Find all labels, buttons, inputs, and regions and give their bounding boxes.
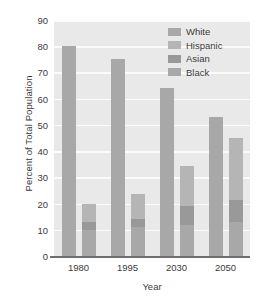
bar-segment-black [229,222,243,256]
population-percent-bar-chart: Percent of Total Population 010203040506… [0,0,262,303]
bar-minority-1980 [82,204,96,256]
y-axis-tick-label: 40 [22,146,48,157]
y-axis-tick-label: 70 [22,67,48,78]
bar-segment-white [209,117,223,256]
gridline [54,99,250,101]
legend-item-white: White [168,25,248,39]
bar-segment-asian [82,222,96,230]
y-axis-tick-label: 80 [22,41,48,52]
y-axis-tick-label: 20 [22,198,48,209]
y-axis-tick-label: 0 [22,251,48,262]
legend-item-black: Black [168,66,248,80]
legend-swatch-black [168,68,181,76]
bar-segment-black [131,227,145,256]
bar-segment-hispanic [82,204,96,222]
legend-label-black: Black [186,67,209,78]
legend-swatch-hispanic [168,41,181,49]
x-axis-title: Year [54,281,250,292]
legend: WhiteHispanicAsianBlack [168,25,248,79]
bar-minority-2050 [229,138,243,256]
bar-minority-2030 [180,166,194,256]
y-axis-tick-label: 10 [22,224,48,235]
legend-swatch-asian [168,55,181,63]
legend-label-hispanic: Hispanic [186,40,222,51]
bar-segment-white [111,59,125,256]
x-axis-tick-label-2050: 2050 [196,262,256,273]
bar-segment-asian [229,200,243,222]
bar-segment-hispanic [131,194,145,219]
y-axis-tick-label: 90 [22,15,48,26]
legend-swatch-white [168,28,181,36]
y-axis-tick-label: 50 [22,119,48,130]
legend-label-white: White [186,26,210,37]
x-axis-line [50,256,250,258]
gridline [54,20,250,22]
bar-white-1980 [62,46,76,256]
y-axis-tick-label: 60 [22,93,48,104]
y-axis-tick-label: 30 [22,172,48,183]
bar-minority-1995 [131,194,145,256]
legend-item-asian: Asian [168,52,248,66]
bar-segment-hispanic [229,138,243,200]
legend-item-hispanic: Hispanic [168,39,248,53]
bar-white-2030 [160,88,174,256]
bar-white-2050 [209,117,223,256]
bar-segment-asian [180,206,194,224]
bar-segment-black [82,230,96,256]
bar-segment-white [160,88,174,256]
legend-label-asian: Asian [186,53,210,64]
bar-segment-asian [131,219,145,227]
bar-segment-black [180,225,194,256]
bar-white-1995 [111,59,125,256]
bar-segment-white [62,46,76,256]
bar-segment-hispanic [180,166,194,207]
